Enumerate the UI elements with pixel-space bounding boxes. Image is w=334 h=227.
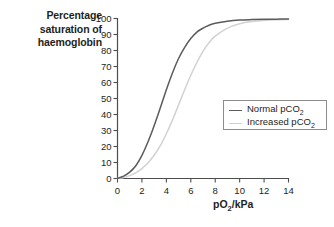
x-tick-label: 10 [230, 186, 250, 196]
y-tick-label: 60 [86, 78, 112, 88]
y-tick-label: 80 [86, 46, 112, 56]
y-tick-label: 30 [86, 126, 112, 136]
y-tick-label: 70 [86, 62, 112, 72]
x-tick-label: 14 [279, 186, 299, 196]
y-tick-label: 0 [86, 174, 112, 184]
x-tick-label: 2 [132, 186, 152, 196]
series-line-increased [118, 19, 289, 178]
x-tick-label: 12 [254, 186, 274, 196]
x-tick-label: 0 [108, 186, 128, 196]
x-tick-label: 4 [156, 186, 176, 196]
y-tick-label: 50 [86, 94, 112, 104]
chart-legend: Normal pCO2 Increased pCO2 [223, 100, 327, 130]
x-tick-label: 8 [205, 186, 225, 196]
x-tick-label: 6 [181, 186, 201, 196]
legend-swatch-normal [229, 110, 242, 112]
y-tick-label: 90 [86, 30, 112, 40]
series-line-normal [118, 19, 289, 179]
legend-item-increased: Increased pCO2 [229, 117, 315, 130]
y-tick-label: 10 [86, 158, 112, 168]
oxygen-dissociation-chart: Percentage saturation of haemoglobin Nor… [0, 0, 334, 227]
x-axis-title: pO2/kPa [213, 198, 253, 213]
legend-swatch-increased [229, 123, 242, 125]
y-tick-label: 100 [86, 14, 112, 24]
y-tick-label: 40 [86, 110, 112, 120]
legend-label-increased: Increased pCO2 [247, 117, 315, 131]
y-tick-label: 20 [86, 142, 112, 152]
